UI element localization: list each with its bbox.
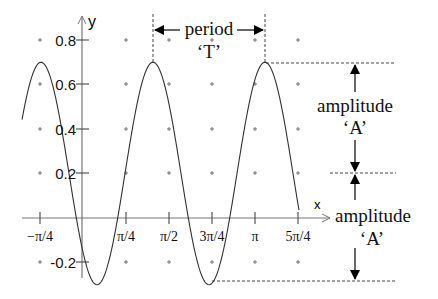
sinusoid-diagram: y x 0.8 0.6 0.4 0.2 -0.2 −π/4 π/4 π/2 3π… xyxy=(0,0,438,299)
x-tick-label: −π/4 xyxy=(27,229,53,244)
y-tick-label: 0.2 xyxy=(55,165,76,182)
x-tick-label: π/2 xyxy=(160,229,178,244)
amplitude-lower-symbol: ‘A’ xyxy=(360,228,384,249)
y-tick-label: 0.8 xyxy=(55,32,76,49)
period-label: period xyxy=(185,18,234,39)
y-tick-label: 0.4 xyxy=(55,121,76,138)
x-tick-label: 5π/4 xyxy=(286,229,311,244)
y-tick-label: 0.6 xyxy=(55,76,76,93)
x-tick-label: π xyxy=(251,229,258,244)
amplitude-upper-symbol: ‘A’ xyxy=(343,117,367,138)
x-tick-label: π/4 xyxy=(117,229,135,244)
y-axis-label: y xyxy=(88,13,96,30)
amplitude-lower-label: amplitude xyxy=(335,205,411,226)
y-tick-label: -0.2 xyxy=(50,254,76,271)
x-axis-label: x xyxy=(314,197,321,212)
y-axis xyxy=(76,16,89,278)
x-axis xyxy=(22,212,330,224)
period-symbol: ‘T’ xyxy=(197,41,221,62)
x-tick-label: 3π/4 xyxy=(200,229,225,244)
amplitude-upper-label: amplitude xyxy=(317,95,393,116)
